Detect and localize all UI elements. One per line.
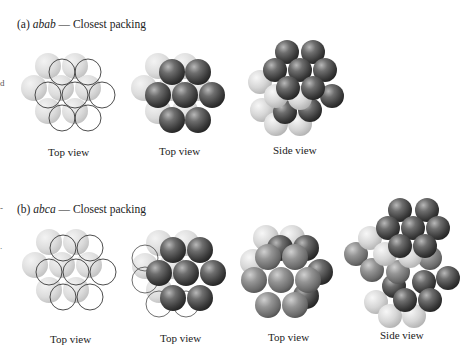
panel-b-view-1-label: Top view	[50, 333, 91, 345]
panel-b-top-view-1	[22, 229, 116, 310]
panel-b-view-2-label: Top view	[160, 332, 201, 344]
panel-b-view-3-label: Top view	[268, 331, 309, 343]
packing-diagram	[0, 0, 469, 360]
panel-b-top-view-2	[132, 230, 226, 317]
panel-b-side-view	[344, 198, 460, 328]
panel-b-top-view-3	[240, 225, 333, 318]
layer-a-spheres	[21, 53, 101, 124]
panel-a-top-view-2	[131, 53, 225, 133]
panel-a-view-1-label: Top view	[48, 146, 89, 158]
layer-a-spheres	[22, 229, 102, 303]
panel-b-view-4-label: Side view	[380, 329, 424, 341]
panel-a-view-3-label: Side view	[273, 144, 317, 156]
panel-a-side-view	[248, 40, 344, 136]
panel-a-top-view-1	[21, 53, 115, 131]
panel-a-view-2-label: Top view	[159, 145, 200, 157]
